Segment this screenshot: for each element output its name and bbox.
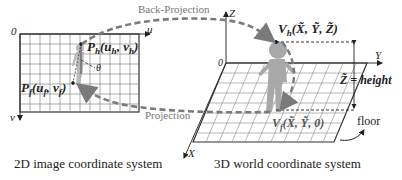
caption-2d: 2D image coordinate system xyxy=(14,157,162,170)
head-point-2d-label: Ph(uh, vh) xyxy=(87,40,138,56)
image-origin-label: 0 xyxy=(11,26,17,37)
floor-pointer xyxy=(340,130,364,140)
foot-point-2d-label: Pf(uf, vf) xyxy=(21,81,66,97)
angle-theta-label: θ xyxy=(96,63,101,73)
back-projection-label: Back-Projection xyxy=(138,4,209,15)
y-axis-label: Y xyxy=(375,50,381,61)
height-label: Z̃ = height xyxy=(340,74,392,86)
projection-label: Projection xyxy=(145,110,190,121)
floor-label: floor xyxy=(357,115,380,127)
person-figure-3d xyxy=(258,41,296,112)
world-origin-label: 0 xyxy=(218,58,223,68)
foot-point-3d-label: Vf(X̃, Ỹ, 0) xyxy=(272,117,324,132)
z-axis-label: Z xyxy=(229,8,235,19)
caption-3d: 3D world coordinate system xyxy=(214,157,361,170)
u-axis-label: u xyxy=(147,24,153,35)
x-axis-label: X xyxy=(188,148,195,159)
person-figure-2d xyxy=(72,44,84,84)
head-point-3d-label: Vh(X̃, Ỹ, Z̃) xyxy=(278,22,338,38)
v-axis-label: v xyxy=(10,112,15,123)
